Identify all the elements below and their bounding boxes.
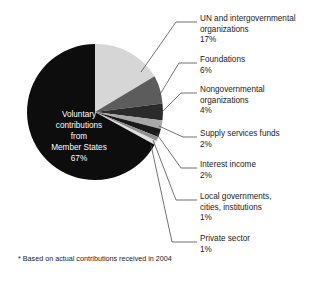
- leader-line-nongovernmental: [161, 93, 197, 113]
- callout-label-line2: organizations: [200, 96, 249, 105]
- center-label-line3: from: [71, 132, 88, 141]
- leader-line-local-governments: [153, 140, 197, 200]
- callout-supply-services: Supply services funds 2%: [200, 129, 280, 150]
- callout-label-line1: Private sector: [200, 234, 250, 243]
- callout-percent: 4%: [200, 106, 265, 117]
- center-label-line1: Voluntary: [62, 110, 97, 119]
- center-label-line4: Member States: [51, 143, 107, 152]
- leader-line-un-intergovernmental: [141, 22, 197, 72]
- callout-private-sector: Private sector 1%: [200, 234, 250, 255]
- callout-percent: 17%: [200, 35, 296, 46]
- center-label-percent: 67%: [71, 154, 87, 163]
- callout-label-line1: UN and intergovernmental: [200, 14, 296, 23]
- callout-percent: 1%: [200, 245, 250, 256]
- callout-local-governments: Local governments, cities, institutions …: [200, 192, 271, 224]
- center-label-line2: contributions: [56, 121, 102, 130]
- callout-interest-income: Interest income 2%: [200, 160, 256, 181]
- callout-label-line2: organizations: [200, 25, 249, 34]
- callout-un-intergovernmental: UN and intergovernmental organizations 1…: [200, 14, 296, 46]
- callout-percent: 2%: [200, 171, 256, 182]
- callout-label-line1: Nongovernmental: [200, 85, 265, 94]
- callout-label-line1: Foundations: [200, 55, 245, 64]
- callout-label-line1: Interest income: [200, 160, 256, 169]
- callout-percent: 2%: [200, 140, 280, 151]
- callout-percent: 1%: [200, 213, 271, 224]
- leader-line-supply-services: [159, 126, 197, 137]
- callout-label-line1: Supply services funds: [200, 129, 280, 138]
- callout-nongovernmental: Nongovernmental organizations 4%: [200, 85, 265, 117]
- leader-line-private-sector: [151, 145, 197, 242]
- leader-line-interest-income: [156, 133, 197, 168]
- callout-label-line2: cities, institutions: [200, 203, 262, 212]
- chart-footnote: * Based on actual contributions received…: [18, 254, 172, 263]
- callout-percent: 6%: [200, 66, 245, 77]
- callout-label-line1: Local governments,: [200, 192, 271, 201]
- leader-line-foundations: [159, 63, 197, 96]
- callout-foundations: Foundations 6%: [200, 55, 245, 76]
